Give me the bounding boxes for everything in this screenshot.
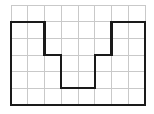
- figure-canvas: [0, 0, 154, 114]
- grid-lines-group: [11, 5, 145, 105]
- grid-polygon-figure: [0, 0, 154, 114]
